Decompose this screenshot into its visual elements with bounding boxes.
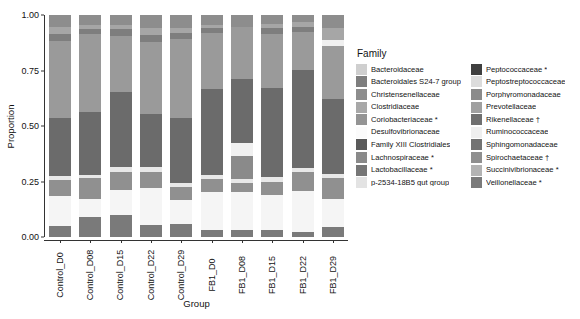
bar-segment[interactable]	[170, 33, 192, 40]
legend-item[interactable]: Peptostreptococcaceae	[471, 76, 578, 89]
bar-segment[interactable]	[201, 15, 223, 25]
legend-item[interactable]: Rikenellaceae †	[471, 113, 578, 126]
bar-segment[interactable]	[261, 28, 283, 34]
bar-segment[interactable]	[110, 25, 132, 30]
bar-segment[interactable]	[170, 118, 192, 182]
bar-segment[interactable]	[261, 230, 283, 237]
bar-segment[interactable]	[79, 217, 101, 237]
legend-item[interactable]: Coriobacteriaceae *	[356, 113, 463, 126]
stacked-bar[interactable]	[110, 15, 132, 237]
legend-item[interactable]: Ruminococcaceae	[471, 126, 578, 139]
bar-segment[interactable]	[201, 25, 223, 28]
bar-segment[interactable]	[322, 178, 344, 199]
bar-segment[interactable]	[261, 15, 283, 24]
bar-segment[interactable]	[49, 226, 71, 237]
bar-segment[interactable]	[49, 118, 71, 177]
bar-segment[interactable]	[79, 15, 101, 25]
stacked-bar[interactable]	[140, 15, 162, 237]
bar-segment[interactable]	[140, 35, 162, 42]
bar-segment[interactable]	[140, 167, 162, 171]
legend-item[interactable]: p-2534-18B5 gut group	[356, 176, 463, 189]
bar-segment[interactable]	[322, 40, 344, 46]
bar-segment[interactable]	[292, 32, 314, 70]
bar-segment[interactable]	[170, 200, 192, 223]
bar-segment[interactable]	[79, 29, 101, 34]
bar-segment[interactable]	[322, 28, 344, 40]
bar-segment[interactable]	[201, 89, 223, 174]
bar-segment[interactable]	[49, 15, 71, 27]
bar-segment[interactable]	[292, 168, 314, 172]
bar-segment[interactable]	[201, 230, 223, 237]
bar-segment[interactable]	[79, 25, 101, 29]
bar-segment[interactable]	[261, 182, 283, 195]
bar-segment[interactable]	[231, 179, 253, 182]
bar-segment[interactable]	[322, 99, 344, 173]
legend-item[interactable]: Succinivibrionaceae *	[471, 164, 578, 177]
bar-segment[interactable]	[261, 195, 283, 231]
bar-segment[interactable]	[231, 79, 253, 143]
legend-item[interactable]: Sphingomonadaceae	[471, 139, 578, 152]
bar-segment[interactable]	[201, 175, 223, 179]
bar-segment[interactable]	[110, 190, 132, 214]
stacked-bar[interactable]	[201, 15, 223, 237]
bar-segment[interactable]	[110, 15, 132, 25]
legend-item[interactable]: Prevotellaceae	[471, 101, 578, 114]
bar-segment[interactable]	[292, 172, 314, 191]
stacked-bar[interactable]	[261, 15, 283, 237]
bar-segment[interactable]	[170, 15, 192, 28]
bar-segment[interactable]	[231, 183, 253, 192]
bar-segment[interactable]	[231, 143, 253, 156]
bar-segment[interactable]	[79, 112, 101, 175]
bar-segment[interactable]	[49, 34, 71, 41]
bar-segment[interactable]	[170, 183, 192, 187]
bar-segment[interactable]	[140, 225, 162, 237]
bar-segment[interactable]	[322, 174, 344, 178]
legend-item[interactable]: Lachnospiraceae *	[356, 151, 463, 164]
bar-segment[interactable]	[322, 227, 344, 237]
bar-segment[interactable]	[79, 199, 101, 217]
bar-segment[interactable]	[231, 27, 253, 79]
bar-segment[interactable]	[49, 41, 71, 118]
legend-item[interactable]: Lactobacillaceae *	[356, 164, 463, 177]
bar-segment[interactable]	[170, 28, 192, 32]
legend-item[interactable]: Peptococcaceae *	[471, 63, 578, 76]
bar-segment[interactable]	[292, 22, 314, 26]
bar-segment[interactable]	[110, 167, 132, 172]
bar-segment[interactable]	[322, 199, 344, 227]
stacked-bar[interactable]	[170, 15, 192, 237]
bar-segment[interactable]	[79, 178, 101, 199]
bar-segment[interactable]	[261, 177, 283, 181]
legend-item[interactable]: Clostridiaceae	[356, 101, 463, 114]
bar-segment[interactable]	[170, 187, 192, 200]
bar-segment[interactable]	[201, 28, 223, 32]
bar-segment[interactable]	[292, 70, 314, 168]
bar-segment[interactable]	[140, 172, 162, 189]
bar-segment[interactable]	[140, 114, 162, 167]
bar-segment[interactable]	[292, 15, 314, 22]
bar-segment[interactable]	[322, 46, 344, 99]
legend-item[interactable]: Veillonellaceae *	[471, 176, 578, 189]
bar-segment[interactable]	[140, 15, 162, 28]
bar-segment[interactable]	[79, 34, 101, 112]
bar-segment[interactable]	[140, 28, 162, 35]
stacked-bar[interactable]	[322, 15, 344, 237]
bar-segment[interactable]	[79, 175, 101, 178]
bar-segment[interactable]	[110, 215, 132, 237]
bar-segment[interactable]	[49, 196, 71, 226]
legend-item[interactable]: Desulfovibrionaceae	[356, 126, 463, 139]
legend-item[interactable]: Christensenellaceae	[356, 88, 463, 101]
bar-segment[interactable]	[292, 232, 314, 237]
bar-segment[interactable]	[110, 172, 132, 191]
bar-segment[interactable]	[110, 36, 132, 93]
bar-segment[interactable]	[140, 42, 162, 114]
bar-segment[interactable]	[261, 34, 283, 88]
stacked-bar[interactable]	[79, 15, 101, 237]
bar-segment[interactable]	[49, 27, 71, 35]
legend-item[interactable]: Bacteroidaceae	[356, 63, 463, 76]
bar-segment[interactable]	[292, 191, 314, 232]
legend-item[interactable]: Porphyromonadaceae	[471, 88, 578, 101]
legend-item[interactable]: Bacteroidales S24-7 group	[356, 76, 463, 89]
bar-segment[interactable]	[201, 179, 223, 191]
bar-segment[interactable]	[261, 24, 283, 28]
legend-item[interactable]: Spirochaetaceae †	[471, 151, 578, 164]
